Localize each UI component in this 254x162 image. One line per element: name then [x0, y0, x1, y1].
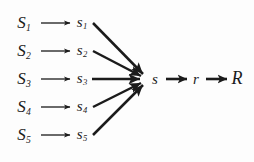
mid-label-1: s1	[77, 15, 87, 31]
diagram-canvas: S1 S2 S3 S4 S5 s1 s2 s3 s4 s5 s r R	[0, 0, 254, 162]
source-label-4: S4	[17, 98, 31, 116]
mid-label-4: s4	[77, 99, 87, 115]
mid-label-2: s2	[77, 43, 87, 59]
mid-label-3: s3	[77, 71, 87, 87]
source-label-3: S3	[17, 70, 31, 88]
converging-edge	[92, 23, 143, 135]
edge-layer	[0, 0, 254, 162]
thin-right-arrow	[41, 23, 70, 135]
node-r: r	[193, 72, 199, 87]
node-R-capital: R	[231, 69, 242, 87]
source-label-5: S5	[17, 126, 31, 144]
mid-label-5: s5	[77, 127, 87, 143]
source-label-2: S2	[17, 42, 31, 60]
node-s: s	[152, 72, 158, 87]
source-label-1: S1	[17, 14, 31, 32]
